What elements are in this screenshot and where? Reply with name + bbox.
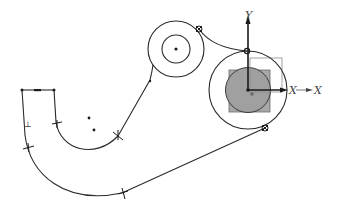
arc-center-point (93, 129, 96, 132)
origin-point[interactable] (246, 88, 250, 92)
horizontal-constraint-marker (34, 89, 41, 91)
inner-tangent-line[interactable] (118, 65, 153, 136)
inner-left-line[interactable] (54, 90, 56, 122)
midpoint-dot (149, 80, 151, 82)
origin-marker (250, 92, 254, 96)
inner-arc[interactable] (56, 122, 118, 150)
y-axis-label: Y (245, 9, 254, 22)
tangent-symbol-top (196, 26, 202, 32)
x-axis-label-primary: X (288, 84, 298, 97)
sketch-canvas[interactable]: ⊥ Y X X (0, 0, 337, 214)
tangent-symbol-right (262, 125, 268, 131)
perpendicular-constraint-icon: ⊥ (24, 120, 32, 129)
outer-tangent-line[interactable] (122, 128, 265, 193)
connecting-arc[interactable] (199, 29, 247, 51)
x-axis-extension-arrowhead (306, 88, 313, 92)
upper-circle-center-dot (174, 47, 177, 50)
x-axis-label-secondary: X (313, 84, 323, 97)
arc-center-point (88, 117, 91, 120)
tangent-tick-marks (23, 120, 128, 199)
